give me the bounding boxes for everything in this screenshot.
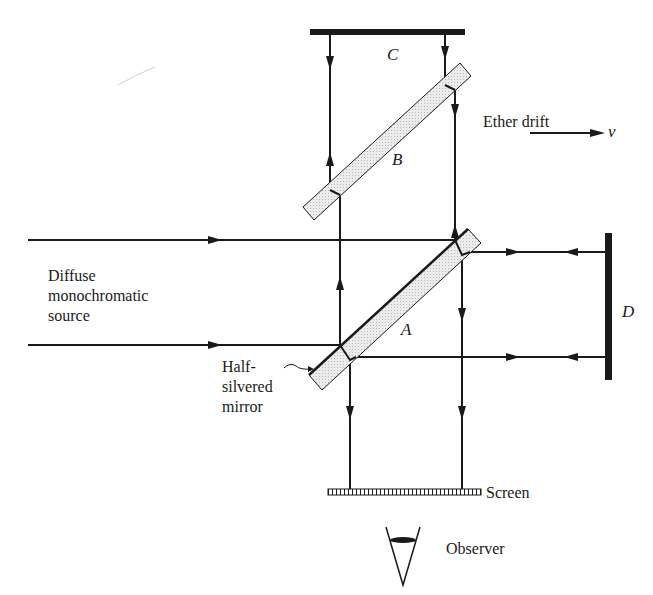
mirror-d [605,233,612,380]
source-label-line1: Diffuse [48,266,96,285]
mirror-d-label: D [622,302,634,321]
source-label-line3: source [48,306,90,325]
mirror-a-silvered-face [309,229,468,375]
mirror-a-label: A [401,320,411,339]
observer-eye-icon [386,527,420,585]
mirror-b-label: B [392,150,402,169]
screen-label: Screen [486,483,530,502]
half-silvered-label-line2: silvered [222,377,273,396]
half-silvered-label-line1: Half- [222,357,256,376]
mirror-c-label: C [387,45,398,64]
ether-drift-label: Ether drift [483,112,549,131]
observer-label: Observer [446,539,505,558]
stray-mark [118,67,155,85]
arrowheads [208,46,578,420]
half-silvered-label-line3: mirror [222,397,263,416]
screen [328,489,481,495]
half-silvered-pointer [284,364,312,369]
source-label-line2: monochromatic [48,286,148,305]
mirror-b [303,63,471,220]
light-beams [28,35,605,490]
mirror-c [310,29,465,35]
velocity-label: v [608,122,616,141]
mirror-a [309,229,481,390]
